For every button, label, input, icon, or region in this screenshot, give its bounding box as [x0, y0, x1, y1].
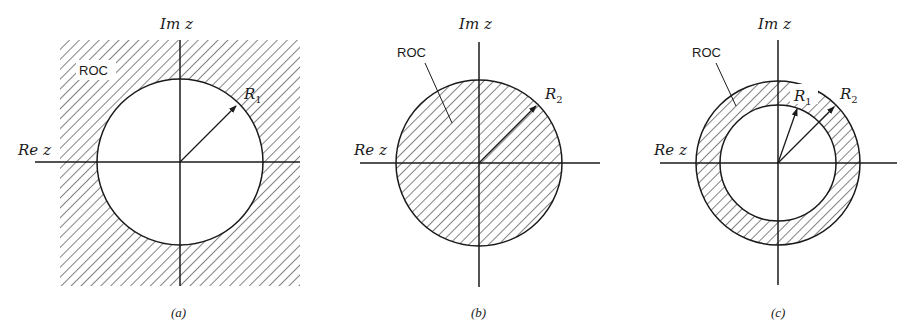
roc-label: ROC: [692, 45, 721, 60]
panel-a: Im z Re z ROC R1 (a): [17, 15, 300, 320]
real-axis-label: Re z: [353, 141, 387, 159]
panel-b: Im z Re z ROC R2 (b): [353, 15, 600, 320]
radius-label-r2: R2: [544, 85, 563, 105]
imag-axis-label: Im z: [159, 15, 193, 33]
real-axis-label: Re z: [653, 141, 687, 159]
panel-caption: (b): [471, 305, 486, 320]
imag-axis-label: Im z: [757, 15, 791, 33]
roc-figure: Im z Re z ROC R1 (a) Im z Re z ROC R2 (b…: [0, 0, 912, 331]
roc-label: ROC: [79, 63, 108, 78]
panel-caption: (c): [771, 305, 785, 320]
panel-c: Im z Re z ROC R1 R2 (c): [653, 15, 897, 320]
panel-caption: (a): [171, 305, 186, 320]
imag-axis-label: Im z: [458, 15, 492, 33]
real-axis-label: Re z: [17, 141, 51, 159]
roc-label: ROC: [397, 45, 426, 60]
